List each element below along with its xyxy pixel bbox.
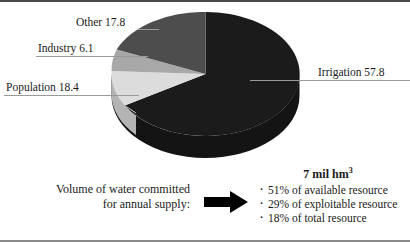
annotation-block: Volume of water committed for annual sup… [0, 162, 410, 240]
pie-top-face [112, 12, 300, 136]
leader-line-population [4, 95, 139, 96]
slice-label-irrigation-text: Irrigation 57.8 [316, 66, 386, 80]
annotation-bullet-2: 29% of exploitable resource [258, 197, 408, 211]
annotation-total-value: 7 mil hm [303, 167, 348, 181]
leader-line-irrigation [250, 80, 410, 81]
annotation-stats: 7 mil hm3 51% of available resource 29% … [258, 166, 408, 225]
slice-label-industry-text: Industry 6.1 [36, 42, 96, 56]
annotation-caption-line1: Volume of water committed [22, 182, 190, 197]
annotation-bullet-list: 51% of available resource 29% of exploit… [258, 183, 408, 225]
leader-line-industry [36, 56, 148, 57]
figure-frame: Other 17.8 Industry 6.1 Population 18.4 … [0, 0, 410, 242]
annotation-bullet-3: 18% of total resource [258, 211, 408, 225]
right-arrow-icon [204, 191, 248, 213]
annotation-total: 7 mil hm3 [258, 166, 408, 182]
annotation-caption-line2: for annual supply: [22, 197, 190, 212]
slice-label-other-text: Other 17.8 [74, 16, 127, 30]
pie-chart-area: Other 17.8 Industry 6.1 Population 18.4 … [0, 2, 410, 160]
annotation-caption: Volume of water committed for annual sup… [22, 182, 190, 212]
leader-line-other [137, 29, 159, 30]
slice-label-population-text: Population 18.4 [4, 81, 81, 95]
slice-label-other: Other 17.8 [74, 16, 127, 30]
pie-chart-3d [103, 12, 308, 158]
slice-label-population: Population 18.4 [4, 81, 81, 95]
annotation-total-exponent: 3 [349, 166, 353, 175]
slice-label-irrigation: Irrigation 57.8 [316, 66, 386, 80]
slice-label-industry: Industry 6.1 [36, 42, 96, 56]
annotation-bullet-1: 51% of available resource [258, 183, 408, 197]
